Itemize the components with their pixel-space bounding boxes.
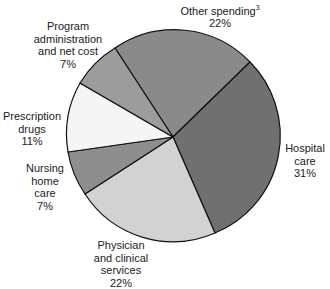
label-other-spending: Other spending3 22% <box>168 2 272 30</box>
label-prescription-drugs: Prescription drugs 11% <box>0 110 64 148</box>
label-nursing-home-care: Nursing home care 7% <box>20 162 70 212</box>
label-physician-services: Physician and clinical services 22% <box>88 239 154 289</box>
label-hospital-care: Hospital care 31% <box>280 142 330 180</box>
label-program-administration: Program administration and net cost 7% <box>30 20 106 70</box>
